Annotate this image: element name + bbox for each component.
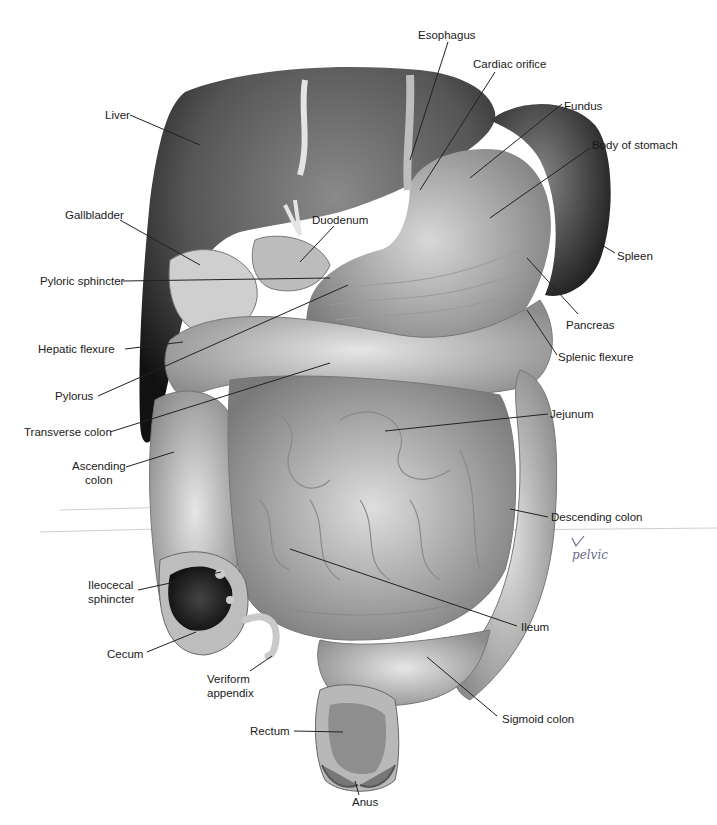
label-ileocecal-sphincter: Ileocecal sphincter <box>88 578 135 606</box>
handwritten-note-pelvic: pelvic <box>572 548 608 562</box>
label-fundus: Fundus <box>564 99 602 113</box>
label-hepatic-flexure: Hepatic flexure <box>38 342 115 356</box>
label-pancreas: Pancreas <box>566 318 615 332</box>
label-anus: Anus <box>352 795 378 809</box>
label-ascending-colon: Ascending colon <box>72 459 126 487</box>
label-veriform-appendix: Veriform appendix <box>207 672 254 700</box>
label-rectum: Rectum <box>250 724 290 738</box>
label-sigmoid-colon: Sigmoid colon <box>502 712 574 726</box>
label-duodenum: Duodenum <box>312 213 368 227</box>
label-ileocecal-line1: Ileocecal <box>88 578 135 592</box>
label-veriform-line2: appendix <box>207 686 254 700</box>
small-intestine <box>228 376 516 640</box>
label-transverse-colon: Transverse colon <box>24 425 112 439</box>
label-body-of-stomach: Body of stomach <box>592 138 678 152</box>
label-splenic-flexure: Splenic flexure <box>558 350 633 364</box>
label-ascending-colon-line2: colon <box>72 473 126 487</box>
label-veriform-line1: Veriform <box>207 672 254 686</box>
label-pylorus: Pylorus <box>55 389 93 403</box>
label-ascending-colon-line1: Ascending <box>72 459 126 473</box>
label-pyloric-sphincter: Pyloric sphincter <box>40 274 124 288</box>
label-cecum: Cecum <box>107 647 143 661</box>
duodenum <box>252 236 330 291</box>
anatomy-illustration <box>0 0 717 825</box>
label-ileum: Ileum <box>521 620 549 634</box>
label-ileocecal-line2: sphincter <box>88 592 135 606</box>
cecum <box>159 552 248 655</box>
label-liver: Liver <box>105 108 130 122</box>
digestive-system-diagram: Esophagus Cardiac orifice Fundus Body of… <box>0 0 717 825</box>
handwritten-checkmark <box>572 536 584 546</box>
label-gallbladder: Gallbladder <box>65 208 124 222</box>
label-spleen: Spleen <box>617 249 653 263</box>
label-descending-colon: Descending colon <box>551 510 642 524</box>
rectum <box>315 685 398 791</box>
label-esophagus: Esophagus <box>418 28 476 42</box>
appendix <box>245 617 276 656</box>
label-cardiac-orifice: Cardiac orifice <box>473 57 547 71</box>
label-jejunum: Jejunum <box>550 407 593 421</box>
